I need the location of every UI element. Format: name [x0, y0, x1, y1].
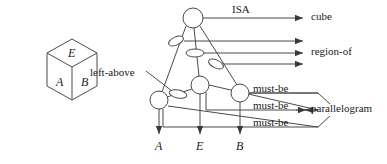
target-label-parallelogram: parallelogram: [311, 103, 372, 114]
target-label-region-of: region-of: [311, 46, 352, 57]
edge-label-must-be-2: must-be: [253, 100, 288, 111]
relation-node-left-above: [168, 88, 187, 100]
terminal-label-b: B: [236, 140, 243, 152]
cube-face-left-label: A: [56, 76, 63, 88]
relation-node-upper: [167, 34, 185, 48]
edge-label-left-above: left-above: [90, 67, 135, 78]
target-label-cube: cube: [311, 11, 332, 22]
node-left: [150, 91, 168, 109]
edge-label-isa: ISA: [232, 4, 250, 15]
terminal-label-e: E: [196, 140, 203, 152]
relation-node-right: [207, 57, 225, 71]
edge-label-must-be-1: must-be: [253, 83, 288, 94]
relation-node-center: [186, 49, 204, 57]
terminal-label-a: A: [155, 140, 162, 152]
node-right: [231, 84, 249, 102]
graph-edges: [146, 18, 330, 134]
cube-face-top-label: E: [68, 47, 75, 59]
node-mid: [191, 76, 209, 94]
cube-face-right-label: B: [81, 76, 88, 88]
node-top: [183, 8, 203, 28]
edge-label-must-be-3: must-be: [253, 117, 288, 128]
graph-nodes: [150, 8, 249, 109]
